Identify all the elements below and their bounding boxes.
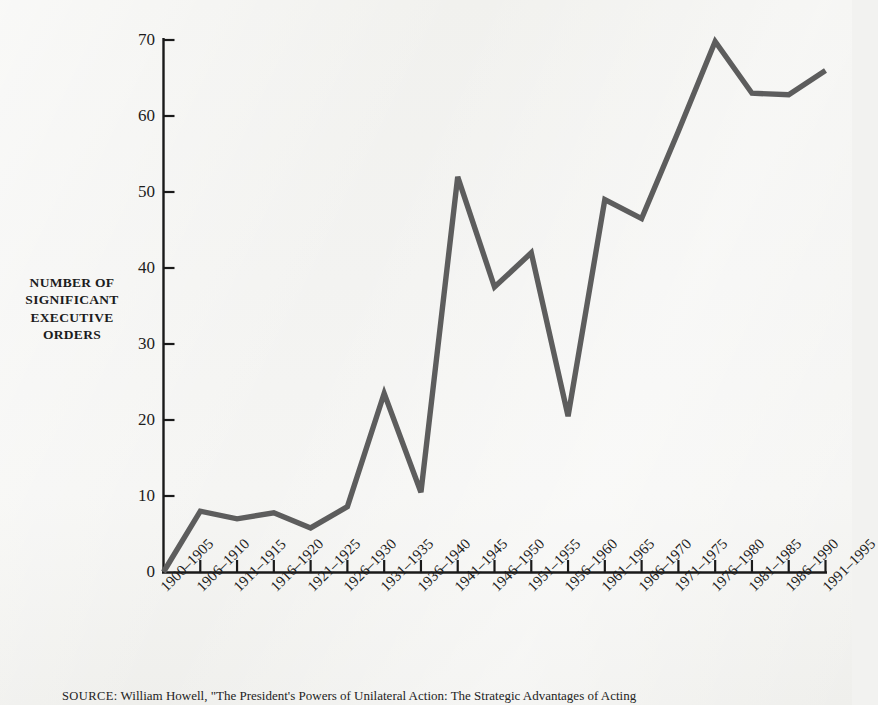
y-axis-tick-label: 30	[125, 335, 155, 352]
source-kicker: SOURCE:	[62, 689, 118, 703]
y-axis-tick-label: 40	[125, 259, 155, 276]
executive-orders-series-line	[164, 42, 826, 572]
y-axis-tick-label: 70	[125, 31, 155, 48]
y-axis-tick-label: 20	[125, 411, 155, 428]
y-axis-ticks	[163, 40, 175, 496]
y-axis-tick-label: 50	[125, 183, 155, 200]
source-note: SOURCE: William Howell, "The President's…	[62, 688, 852, 704]
chart-axes	[162, 38, 827, 573]
source-text: William Howell, "The President's Powers …	[121, 688, 637, 703]
y-axis-tick-label: 60	[125, 107, 155, 124]
y-axis-tick-label: 10	[125, 487, 155, 504]
y-axis-tick-label: 0	[125, 563, 155, 580]
